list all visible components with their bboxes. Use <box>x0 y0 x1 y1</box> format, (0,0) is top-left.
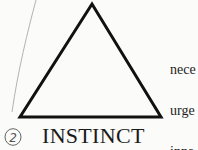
svg-text:2: 2 <box>9 131 17 145</box>
side-text-line: inna <box>170 145 196 150</box>
triangle-shape <box>20 4 161 117</box>
side-text-line: nece <box>170 63 196 77</box>
triangle-label: INSTINCT <box>42 123 145 149</box>
side-text: nece urge inna men <box>170 36 196 150</box>
side-text-line: urge <box>170 104 196 118</box>
circled-number-annotation: 2 <box>4 128 22 146</box>
